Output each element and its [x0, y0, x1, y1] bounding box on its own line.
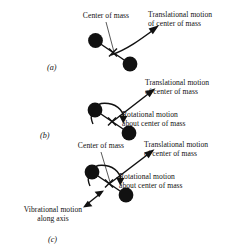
translational-label-c: Translational motion of center of mass — [144, 140, 208, 159]
vibrational-label-c: Vibrational motion along axis — [10, 205, 96, 224]
center-of-mass-leader-line-c — [101, 152, 110, 182]
panel-tag-c: (c) — [48, 235, 57, 244]
molecular-motion-figure: Center of mass Translational motion of c… — [0, 0, 237, 251]
atom-c-1 — [85, 165, 100, 180]
center-of-mass-label-c: Center of mass — [59, 141, 143, 150]
rotational-label-c: Rotational motion about center of mass — [119, 172, 183, 191]
